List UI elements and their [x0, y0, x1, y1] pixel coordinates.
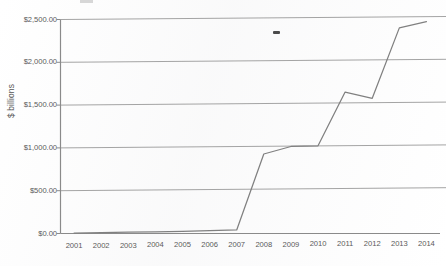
x-axis-tick-label: 2012 — [364, 239, 381, 248]
x-axis-tick-label: 2013 — [391, 239, 408, 248]
x-axis-tick-label: 2007 — [228, 240, 245, 249]
data-series-line — [74, 22, 426, 233]
scan-speck-artifact — [273, 31, 280, 34]
x-axis-tick-label: 2006 — [201, 240, 218, 249]
chart-container: $ billions $0.00$500.00$1,000.00$1,500.0… — [0, 0, 446, 266]
x-axis-tick-label: 2010 — [310, 239, 327, 248]
x-axis-tick-label: 2002 — [93, 241, 110, 250]
x-axis-tick-label: 2004 — [147, 240, 164, 249]
gridline — [61, 17, 446, 20]
plot-area — [0, 0, 446, 266]
x-axis-tick-label: 2014 — [418, 239, 435, 248]
x-axis-tick-label: 2009 — [283, 240, 300, 249]
gridline — [61, 102, 446, 105]
x-axis-tick-label: 2005 — [174, 240, 191, 249]
x-axis-tick-label: 2003 — [120, 241, 137, 250]
x-axis-tick-label: 2001 — [66, 241, 83, 250]
gridline — [61, 59, 446, 62]
x-axis-tick-label: 2008 — [255, 240, 272, 249]
gridlines — [61, 17, 446, 191]
x-axis-tick-labels: 2001200220032004200520062007200820092010… — [60, 240, 440, 256]
gridline — [61, 145, 446, 148]
gridline — [61, 188, 446, 191]
x-axis-tick-label: 2011 — [337, 239, 353, 248]
